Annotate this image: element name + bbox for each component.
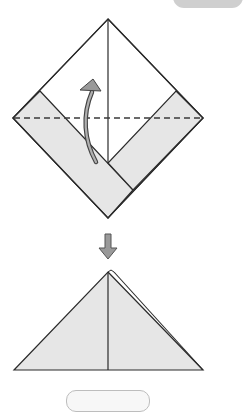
step1-diamond [13,19,203,218]
bottom-pill [66,390,150,412]
down-arrow-icon [99,234,117,259]
step2-triangle [14,270,203,370]
apex-layers [108,270,114,272]
